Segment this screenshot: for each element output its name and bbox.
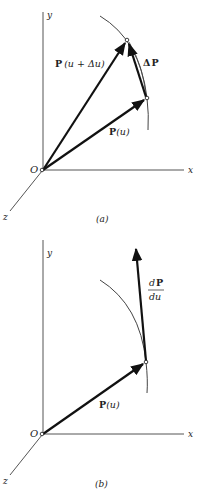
caption-b: (b) bbox=[95, 479, 108, 489]
y-label: y bbox=[46, 10, 53, 20]
z-axis bbox=[10, 171, 42, 211]
origin-label: O bbox=[30, 428, 38, 439]
figure-canvas: y x z O P(u + Δu) P(u) ΔP (a) y x z O P(… bbox=[0, 0, 207, 500]
fraction-denominator: du bbox=[149, 291, 161, 302]
label-dp-du: dP du bbox=[148, 277, 164, 302]
origin-point bbox=[40, 432, 44, 436]
point-top bbox=[125, 38, 129, 42]
vector-p-u bbox=[43, 364, 143, 434]
figure-a: y x z O P(u + Δu) P(u) ΔP (a) bbox=[2, 10, 193, 224]
vector-delta-p bbox=[129, 44, 146, 97]
z-label: z bbox=[2, 212, 8, 222]
label-p-u: P(u) bbox=[109, 126, 130, 137]
label-delta-p: ΔP bbox=[143, 57, 159, 68]
point bbox=[144, 360, 148, 364]
z-label: z bbox=[2, 476, 8, 486]
origin-point bbox=[40, 168, 44, 172]
figure-b: y x z O P(u) dP du (b) bbox=[2, 240, 193, 489]
origin-label: O bbox=[30, 164, 38, 175]
x-label: x bbox=[188, 165, 193, 175]
x-label: x bbox=[188, 429, 193, 439]
vector-dp-du bbox=[136, 249, 146, 361]
label-p-u: P(u) bbox=[99, 399, 120, 410]
fraction-numerator: dP bbox=[149, 277, 163, 288]
y-label: y bbox=[46, 248, 53, 258]
label-p-u-plus-du: P(u + Δu) bbox=[55, 58, 105, 69]
caption-a: (a) bbox=[96, 214, 109, 224]
point-right bbox=[145, 96, 149, 100]
z-axis bbox=[10, 435, 42, 475]
